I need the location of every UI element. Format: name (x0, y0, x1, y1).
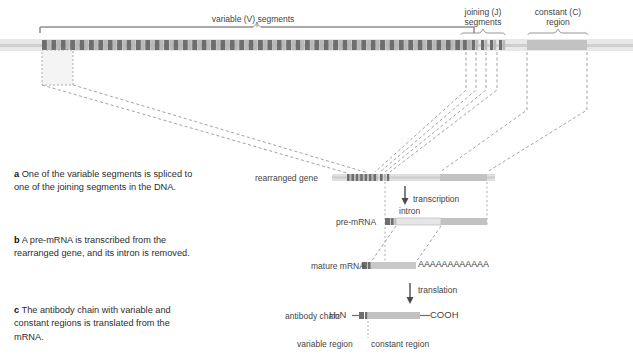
v-segment-spacer (57, 40, 61, 50)
constant-region-caption: constant region (371, 339, 429, 350)
v-segment-tick (42, 40, 47, 50)
rearranged-j-tick (387, 174, 389, 181)
v-segment-spacer (85, 40, 89, 50)
step-c-marker: c (14, 305, 19, 315)
v-segment-tick (267, 40, 272, 50)
v-segment-tick (380, 40, 385, 50)
v-segment-spacer (244, 40, 248, 50)
v-segment-spacer (179, 40, 183, 50)
rearranged-v-spacer (359, 174, 360, 181)
rearranged-v-spacer (350, 174, 351, 181)
v-segment-tick (145, 40, 150, 50)
rearranged-gene-label: rearranged gene (255, 173, 318, 184)
v-segment-tick (296, 40, 301, 50)
mature-mrna-row (362, 262, 416, 269)
pre-mrna-j-seg (391, 218, 394, 225)
v-segment-tick (343, 40, 348, 50)
figure-canvas: variable (V) segments joining (J) segmen… (0, 0, 633, 360)
v-segment-spacer (66, 40, 70, 50)
v-segment-tick (192, 40, 197, 50)
joining-bracket (461, 29, 505, 35)
v-segment-tick (239, 40, 244, 50)
pre-mrna-label: pre-mRNA (336, 217, 376, 228)
v-segment-spacer (216, 40, 220, 50)
v-segment-tick (136, 40, 141, 50)
v-segment-tick (324, 40, 329, 50)
v-segment-spacer (169, 40, 173, 50)
rearranged-v-tick (369, 174, 372, 181)
v-segment-spacer (442, 40, 446, 50)
v-segment-spacer (385, 40, 389, 50)
v-segment-tick (61, 40, 66, 50)
v-segment-tick (436, 40, 441, 50)
j-segment-spacer (467, 40, 469, 50)
v-segment-tick (220, 40, 225, 50)
v-segment-spacer (254, 40, 258, 50)
v-segment-tick (361, 40, 366, 50)
v-segment-spacer (75, 40, 79, 50)
pre-mrna-row (385, 218, 487, 225)
v-segment-spacer (451, 40, 455, 50)
intron-label: intron (399, 206, 420, 217)
j-segment-tick (490, 40, 493, 50)
v-segment-spacer (197, 40, 201, 50)
v-segment-spacer (273, 40, 277, 50)
v-segment-tick (155, 40, 160, 50)
rearranged-gene-c-block (440, 174, 487, 181)
v-segment-spacer (357, 40, 361, 50)
v-segment-spacer (395, 40, 399, 50)
rearranged-v-spacer (363, 174, 364, 181)
transcription-arrow (402, 186, 409, 205)
v-segment-spacer (132, 40, 136, 50)
rearranged-j-spacer (384, 174, 386, 181)
step-a-marker: a (14, 169, 19, 179)
j-segment-spacer (485, 40, 487, 50)
v-segment-tick (89, 40, 94, 50)
poly-a-tail-label: AAAAAAAAAAAA (418, 259, 489, 270)
v-segment-tick (249, 40, 254, 50)
c-terminus-label: COOH (430, 309, 459, 321)
antibody-c-region (368, 312, 420, 319)
rearranged-v-spacer (376, 174, 377, 181)
n-terminus-label: H2N (329, 309, 346, 321)
v-segment-tick (305, 40, 310, 50)
v-segment-spacer (207, 40, 211, 50)
v-segment-tick (230, 40, 235, 50)
step-b-text: b A pre-mRNA is transcribed from the rea… (14, 234, 199, 261)
rearranged-j-tick (380, 174, 383, 181)
translation-arrow (407, 283, 414, 304)
v-segment-spacer (226, 40, 230, 50)
v-segment-spacer (94, 40, 98, 50)
constant-region-label-line2: region (522, 17, 594, 28)
j-splice-leader-lines (375, 52, 497, 172)
v-segment-tick (164, 40, 169, 50)
v-segment-tick (258, 40, 263, 50)
n-terminus-n: N (340, 309, 347, 320)
v-splice-leader-lines (42, 85, 368, 173)
v-segment-tick (455, 40, 460, 50)
v-segment-tick (202, 40, 207, 50)
v-segment-spacer (338, 40, 342, 50)
v-segment-spacer (282, 40, 286, 50)
joining-segments-label-line2: segments (447, 17, 519, 28)
v-segment-tick (108, 40, 113, 50)
v-segment-tick (286, 40, 291, 50)
rearranged-v-tick (373, 174, 376, 181)
rearranged-v-spacer (372, 174, 373, 181)
spliced-v-highlight (42, 50, 73, 85)
v-segment-spacer (291, 40, 295, 50)
variable-bracket-ends (40, 27, 474, 33)
v-segment-spacer (348, 40, 352, 50)
rearranged-v-tick (360, 174, 363, 181)
rearranged-v-tick (351, 174, 354, 181)
v-segment-spacer (376, 40, 380, 50)
step-c-text: c The antibody chain with variable and c… (14, 304, 199, 344)
step-b-body: A pre-mRNA is transcribed from the rearr… (14, 235, 190, 258)
step-a-body: One of the variable segments is spliced … (14, 169, 192, 192)
rearranged-v-tick (347, 174, 350, 181)
v-segment-spacer (122, 40, 126, 50)
v-segment-spacer (160, 40, 164, 50)
v-segment-tick (333, 40, 338, 50)
v-segment-tick (51, 40, 56, 50)
v-segment-tick (277, 40, 282, 50)
